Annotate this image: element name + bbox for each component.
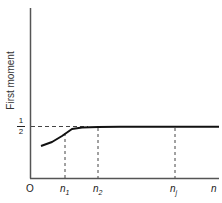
first-moment-curve xyxy=(41,127,219,146)
y-tick-half: 1 2 xyxy=(17,117,25,136)
y-axis-label: First moment xyxy=(2,40,18,120)
x-tick-nj: nj xyxy=(170,183,177,196)
half-numerator: 1 xyxy=(17,117,25,127)
x-tick-n-text: n xyxy=(211,183,217,194)
x-tick-origin-text: O xyxy=(26,183,34,194)
x-tick-n1: n1 xyxy=(60,183,69,196)
chart-canvas xyxy=(0,0,222,203)
x-tick-n: n xyxy=(211,183,217,194)
y-axis-label-text: First moment xyxy=(5,51,16,109)
x-tick-origin: O xyxy=(26,183,34,194)
x-tick-n2-sub: 2 xyxy=(99,189,103,196)
x-tick-n1-sub: 1 xyxy=(66,189,70,196)
x-tick-nj-sub: j xyxy=(176,189,178,196)
x-tick-n2: n2 xyxy=(93,183,102,196)
half-denominator: 2 xyxy=(17,127,25,136)
